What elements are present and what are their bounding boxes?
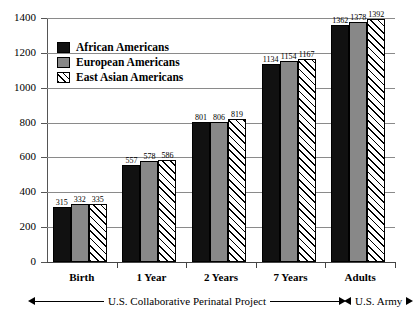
annotation-us-army: U.S. Army (344, 293, 402, 309)
bar-value-label: 806 (213, 113, 225, 122)
y-tick-label: 1200 (0, 47, 36, 58)
legend-label-east-asian-americans: East Asian Americans (76, 71, 183, 83)
bar[interactable]: 1378 (349, 22, 367, 262)
annotation-label-us-army: U.S. Army (351, 295, 406, 307)
y-tick-label: 200 (0, 221, 36, 232)
legend-item-african-americans: African Americans (57, 40, 183, 54)
bar[interactable]: 332 (71, 204, 89, 262)
legend-swatch-icon-african-americans (57, 42, 70, 53)
x-axis-line (47, 262, 396, 263)
y-tick-label: 0 (0, 256, 36, 267)
annotation-rule (35, 301, 104, 302)
bar[interactable]: 578 (140, 161, 158, 262)
legend-label-african-americans: African Americans (76, 41, 169, 53)
annotation-perinatal-project: U.S. Collaborative Perinatal Project (28, 293, 346, 309)
x-tick-label: Adults (345, 271, 376, 283)
legend-swatch-icon-european-americans (57, 57, 70, 68)
x-tick-mark (117, 262, 118, 268)
bar-value-label: 332 (74, 195, 86, 204)
bar-value-label: 1392 (368, 10, 384, 19)
arrow-right-icon (406, 297, 413, 305)
bar-value-label: 1134 (263, 55, 279, 64)
y-tick-label: 400 (0, 186, 36, 197)
bar[interactable]: 586 (158, 160, 176, 262)
annotation-label-perinatal-project: U.S. Collaborative Perinatal Project (104, 295, 270, 307)
bar-value-label: 819 (231, 110, 243, 119)
x-tick-label: 1 Year (136, 271, 166, 283)
bar-group: 801806819 (192, 18, 246, 262)
footer-annotations: U.S. Collaborative Perinatal Project U.S… (0, 293, 406, 315)
x-tick-label: Birth (69, 271, 94, 283)
bar-group: 136213781392 (331, 18, 385, 262)
bar-value-label: 1154 (281, 52, 297, 61)
bar-group: 113411541167 (262, 18, 316, 262)
bar-value-label: 578 (143, 152, 155, 161)
x-tick-mark (256, 262, 257, 268)
bar-value-label: 801 (195, 113, 207, 122)
legend-swatch-icon-east-asian-americans (57, 72, 70, 83)
x-tick-label: 2 Years (204, 271, 238, 283)
y-tick-label: 600 (0, 151, 36, 162)
bar[interactable]: 1134 (262, 64, 280, 262)
bar-value-label: 1378 (350, 13, 366, 22)
y-tick-label: 1000 (0, 82, 36, 93)
y-tick-label: 1400 (0, 12, 36, 23)
bar[interactable]: 335 (89, 204, 107, 262)
x-tick-mark (325, 262, 326, 268)
bar[interactable]: 1154 (280, 61, 298, 262)
bar[interactable]: 557 (122, 165, 140, 262)
bar[interactable]: 819 (228, 119, 246, 262)
bar[interactable]: 1392 (367, 19, 385, 262)
legend-item-european-americans: European Americans (57, 55, 183, 69)
bar[interactable]: 806 (210, 122, 228, 262)
bar[interactable]: 801 (192, 122, 210, 262)
x-tick-mark (395, 262, 396, 268)
x-tick-label: 7 Years (274, 271, 308, 283)
bar-value-label: 586 (161, 151, 173, 160)
legend: African Americans European Americans Eas… (57, 40, 183, 85)
annotation-rule (270, 301, 339, 302)
bar-value-label: 1362 (332, 16, 348, 25)
y-tick-label: 800 (0, 117, 36, 128)
bar-value-label: 315 (56, 198, 68, 207)
bar-value-label: 335 (92, 195, 104, 204)
bar-value-label: 1167 (299, 50, 315, 59)
arrow-left-icon (344, 297, 351, 305)
x-tick-mark (186, 262, 187, 268)
bar[interactable]: 1362 (331, 25, 349, 262)
legend-label-european-americans: European Americans (76, 56, 180, 68)
arrow-left-icon (28, 297, 35, 305)
y-tick-mark (41, 262, 47, 263)
legend-item-east-asian-americans: East Asian Americans (57, 70, 183, 84)
bar[interactable]: 1167 (298, 59, 316, 262)
bar[interactable]: 315 (53, 207, 71, 262)
bar-value-label: 557 (125, 156, 137, 165)
